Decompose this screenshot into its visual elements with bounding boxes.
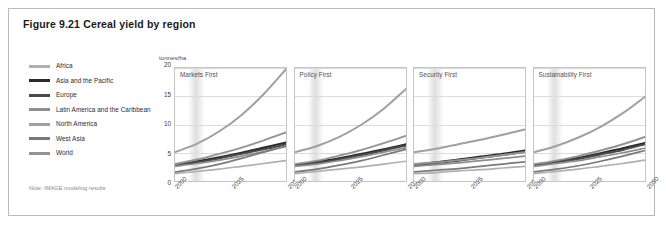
legend-swatch-icon: [29, 79, 50, 82]
legend-item: World: [29, 146, 155, 161]
panel-title: Sustainability First: [539, 71, 592, 78]
legend-item-label: Europe: [56, 92, 77, 98]
y-axis-tick-label: 5: [167, 149, 171, 156]
x-axis-tick-labels: 200020252050: [413, 183, 526, 213]
x-axis-tick-labels: 200020252050: [294, 183, 407, 213]
legend-swatch-icon: [29, 152, 50, 155]
x-axis-tick-labels: 200020252050: [174, 183, 287, 213]
legend-swatch-icon: [29, 137, 50, 140]
chart-panel: Security First: [413, 67, 526, 182]
legend-item-label: World: [56, 150, 73, 156]
panel-plot: [414, 68, 525, 181]
y-axis-tick-labels: 05101520: [155, 64, 171, 182]
panel-title: Security First: [419, 71, 457, 78]
legend-item: Africa: [29, 59, 155, 74]
legend-item-label: Asia and the Pacific: [56, 78, 113, 84]
legend-swatch-icon: [29, 65, 50, 68]
series-line: [175, 69, 286, 152]
legend-item: West Asia: [29, 132, 155, 147]
panel-plot: [295, 68, 406, 181]
legend-item-label: Latin America and the Caribbean: [56, 107, 151, 113]
x-axis-tick-labels: 200020252050: [533, 183, 646, 213]
y-axis-tick-label: 15: [164, 90, 171, 97]
panel-title: Policy First: [300, 71, 332, 78]
legend-item: North America: [29, 117, 155, 132]
legend-item: Asia and the Pacific: [29, 74, 155, 89]
series-line: [534, 137, 645, 164]
chart-panel: Sustainability First: [533, 67, 646, 182]
figure-title: Figure 9.21 Cereal yield by region: [23, 18, 196, 30]
chart-legend: AfricaAsia and the PacificEuropeLatin Am…: [29, 59, 155, 161]
figure-container: Figure 9.21 Cereal yield by region Afric…: [8, 8, 655, 216]
legend-item: Europe: [29, 88, 155, 103]
y-axis-tick-label: 20: [164, 61, 171, 68]
legend-swatch-icon: [29, 108, 50, 111]
figure-note: Note: IMAGE modeling results: [29, 185, 106, 191]
chart-panel: Policy First: [294, 67, 407, 182]
y-axis-tick-label: 0: [167, 179, 171, 186]
series-line: [295, 89, 406, 152]
series-line: [414, 130, 525, 153]
legend-item: Latin America and the Caribbean: [29, 103, 155, 118]
legend-item-label: North America: [56, 121, 97, 127]
x-axis-tick-label: 2050: [645, 175, 660, 190]
panel-plot: [534, 68, 645, 181]
series-line: [534, 97, 645, 152]
legend-swatch-icon: [29, 123, 50, 126]
legend-swatch-icon: [29, 94, 50, 97]
panel-title: Markets First: [180, 71, 218, 78]
chart-panel: Markets First: [174, 67, 287, 182]
legend-item-label: West Asia: [56, 136, 85, 142]
y-axis-tick-label: 10: [164, 120, 171, 127]
chart-panels: Markets First200020252050Policy First200…: [174, 67, 646, 182]
panel-plot: [175, 68, 286, 181]
legend-item-label: Africa: [56, 63, 73, 69]
